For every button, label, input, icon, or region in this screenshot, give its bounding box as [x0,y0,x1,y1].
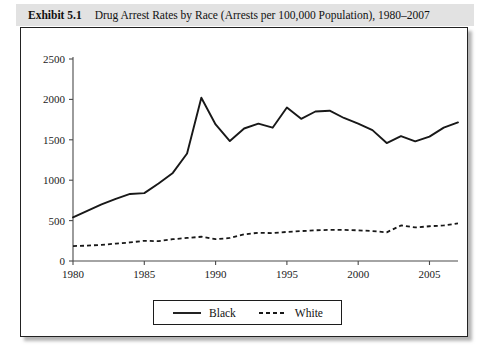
y-tick-label: 0 [60,255,66,267]
x-tick-label: 1995 [276,268,299,280]
legend-item-black: Black [172,307,236,319]
x-tick-label: 2000 [347,268,370,280]
y-tick-label: 2000 [43,93,66,105]
series-line-black [73,98,458,218]
legend-item-white: White [258,307,323,319]
x-tick-label: 1980 [62,268,85,280]
exhibit-title: Drug Arrest Rates by Race (Arrests per 1… [95,9,430,21]
y-tick-label: 1000 [43,174,66,186]
legend-swatch-solid-icon [172,308,202,318]
series-line-white [73,223,458,246]
x-tick-label: 1990 [205,268,228,280]
figure-card: 0500100015002000250019801985199019952000… [20,27,468,337]
legend-swatch-dashed-icon [258,308,288,318]
plot-area: 0500100015002000250019801985199019952000… [21,28,469,338]
x-tick-label: 2005 [418,268,441,280]
line-chart: 0500100015002000250019801985199019952000… [21,28,469,338]
legend-label-black: Black [209,307,236,319]
figure-page: Exhibit 5.1 Drug Arrest Rates by Race (A… [0,0,486,352]
legend-label-white: White [295,307,323,319]
exhibit-caption-band: Exhibit 5.1 Drug Arrest Rates by Race (A… [16,4,474,26]
chart-legend: Black White [153,300,342,325]
y-tick-label: 500 [49,215,66,227]
x-tick-label: 1985 [133,268,156,280]
y-tick-label: 2500 [43,53,66,65]
exhibit-label: Exhibit 5.1 [28,9,82,21]
y-tick-label: 1500 [43,134,66,146]
